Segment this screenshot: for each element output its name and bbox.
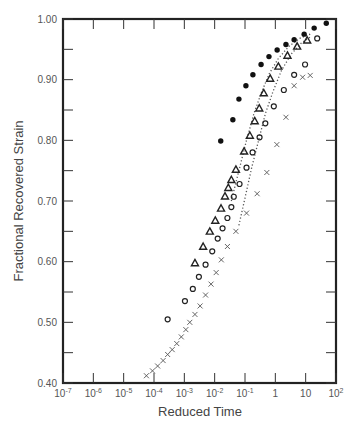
open-triangle-point [206, 228, 213, 234]
open-circle-point [210, 249, 215, 254]
cross-point [183, 327, 188, 332]
open-triangle-point [260, 90, 267, 96]
y-tick-label: 0.70 [38, 196, 58, 207]
filled-circle-point [236, 96, 241, 101]
cross-point [233, 229, 238, 234]
open-circle-point [225, 215, 230, 220]
cross-point [161, 358, 166, 363]
x-tick-label: 10-4 [145, 387, 162, 399]
open-circle-point [190, 286, 195, 291]
cross-point [219, 257, 224, 262]
open-circle-point [263, 121, 268, 126]
x-tick-label: 1 [273, 388, 279, 399]
y-tick-label: 0.90 [38, 74, 58, 85]
scatter-chart: 0.400.500.600.700.800.901.00 10-710-610-… [0, 0, 355, 431]
filled-circle-point [301, 31, 306, 36]
filled-circle-point [218, 138, 223, 143]
open-circle-point [303, 62, 308, 67]
open-triangle-point [284, 52, 291, 58]
x-tick-label: 10 [300, 388, 312, 399]
cross-point [274, 142, 279, 147]
y-axis: 0.400.500.600.700.800.901.00 [38, 14, 336, 389]
cross-point [198, 303, 203, 308]
cross-point [292, 83, 297, 88]
open-circle-point [165, 317, 170, 322]
y-tick-label: 0.60 [38, 256, 58, 267]
cross-point [300, 75, 305, 80]
open-triangle-point [228, 176, 235, 182]
open-triangle-point [267, 75, 274, 81]
x-tick-label: 10-6 [85, 387, 102, 399]
filled-circle-point [324, 21, 329, 26]
cross-point [264, 170, 269, 175]
open-circle-point [196, 274, 201, 279]
cross-point [165, 352, 170, 357]
x-tick-label: 10-1 [236, 387, 253, 399]
x-axis-title: Reduced Time [158, 404, 242, 419]
x-tick-label: 10-5 [115, 387, 132, 399]
data-points [144, 21, 329, 379]
cross-point [244, 211, 249, 216]
open-triangle-point [232, 166, 239, 172]
filled-circle-point [274, 47, 279, 52]
open-triangle-point [221, 193, 228, 199]
cross-point [308, 73, 313, 78]
filled-circle-point [258, 62, 263, 67]
open-circle-point [315, 36, 320, 41]
x-tick-label: 10-3 [176, 387, 193, 399]
y-tick-label: 0.80 [38, 135, 58, 146]
cross-point [155, 364, 160, 369]
x-tick-label: 102 [328, 387, 343, 399]
open-circle-point [229, 205, 234, 210]
x-axis: 10-710-610-510-410-310-210-1110102 [54, 19, 343, 399]
open-circle-point [203, 262, 208, 267]
open-triangle-point [225, 184, 232, 190]
open-triangle-point [275, 63, 282, 69]
cross-point [150, 368, 155, 373]
y-tick-label: 0.50 [38, 317, 58, 328]
open-circle-point [220, 226, 225, 231]
filled-circle-point [311, 25, 316, 30]
dotted-curve [231, 34, 310, 201]
filled-circle-point [250, 72, 255, 77]
open-circle-point [292, 72, 297, 77]
filled-circle-point [291, 37, 296, 42]
open-triangle-point [200, 243, 207, 249]
dotted-curves [231, 34, 311, 225]
open-circle-point [271, 104, 276, 109]
cross-point [187, 320, 192, 325]
open-circle-point [244, 165, 249, 170]
cross-point [283, 115, 288, 120]
filled-circle-point [283, 42, 288, 47]
cross-point [214, 270, 219, 275]
filled-circle-point [243, 83, 248, 88]
open-circle-point [237, 182, 242, 187]
x-tick-label: 10-2 [206, 387, 223, 399]
cross-point [209, 282, 214, 287]
cross-point [255, 191, 260, 196]
y-tick-label: 0.40 [38, 378, 58, 389]
filled-circle-point [266, 54, 271, 59]
cross-point [179, 334, 184, 339]
open-triangle-point [294, 43, 301, 49]
cross-point [225, 244, 230, 249]
open-triangle-point [218, 205, 225, 211]
cross-point [170, 347, 175, 352]
cross-point [203, 293, 208, 298]
plot-frame [63, 19, 336, 383]
y-tick-label: 1.00 [38, 14, 58, 25]
open-triangle-point [246, 132, 253, 138]
open-circle-point [182, 299, 187, 304]
open-circle-point [215, 236, 220, 241]
cross-point [144, 373, 149, 378]
open-circle-point [250, 150, 255, 155]
open-triangle-point [191, 259, 198, 265]
cross-point [174, 341, 179, 346]
open-triangle-point [212, 217, 219, 223]
x-tick-label: 10-7 [54, 387, 71, 399]
filled-circle-point [230, 117, 235, 122]
cross-point [192, 312, 197, 317]
y-axis-title: Fractional Recovered Strain [11, 120, 26, 281]
open-circle-point [281, 87, 286, 92]
